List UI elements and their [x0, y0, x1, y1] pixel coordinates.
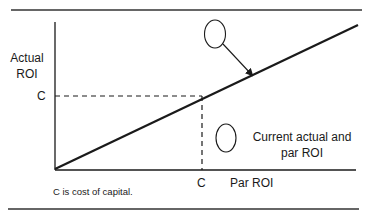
roi-diagram: Actual ROI C C Par ROI Current actual an… [0, 0, 370, 216]
x-axis-label: Par ROI [230, 177, 273, 189]
y-axis-label-line2: ROI [2, 68, 52, 80]
diagram-canvas [0, 0, 370, 216]
x-tick-c: C [197, 177, 206, 189]
y-tick-c: C [37, 90, 46, 102]
arrow-pointer [223, 44, 252, 75]
legend-note-line2: par ROI [246, 147, 358, 159]
y-axis-label-line1: Actual [2, 52, 52, 64]
legend-note-line1: Current actual and [246, 131, 358, 143]
figure-caption: C is cost of capital. [53, 187, 133, 197]
top-circle-marker [205, 20, 226, 48]
bottom-circle-marker [216, 124, 236, 152]
